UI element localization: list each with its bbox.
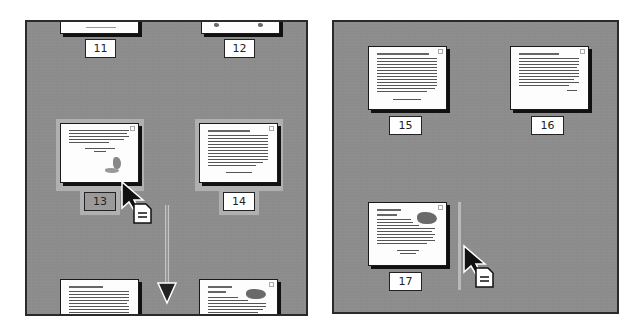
page-thumbnail-16[interactable] <box>510 46 589 110</box>
page-thumbnail-14[interactable] <box>199 123 278 183</box>
left-page-sorter-panel[interactable]: 11 12 13 14 <box>25 20 308 316</box>
page-number-15: 15 <box>389 116 422 135</box>
page-thumbnail-next-right[interactable] <box>199 279 278 316</box>
insertion-indicator-bar <box>458 202 461 290</box>
page-number-12: 12 <box>224 39 255 58</box>
page-thumbnail-15[interactable] <box>368 46 447 110</box>
page-thumbnail-11[interactable] <box>60 20 139 34</box>
arrow-down-icon <box>157 205 177 305</box>
drag-page-cursor-icon <box>120 180 160 225</box>
page-thumbnail-12[interactable] <box>201 20 280 34</box>
right-page-sorter-panel[interactable]: 15 16 17 <box>332 20 619 314</box>
page-number-17: 17 <box>389 272 422 291</box>
page-number-13: 13 <box>84 192 116 211</box>
page-number-14: 14 <box>223 192 255 211</box>
page-thumbnail-13[interactable] <box>60 123 139 183</box>
page-number-16: 16 <box>531 116 564 135</box>
page-thumbnail-17[interactable] <box>368 202 447 266</box>
drag-page-cursor-icon <box>462 244 502 289</box>
page-thumbnail-next-left[interactable] <box>60 279 139 316</box>
page-number-11: 11 <box>85 39 116 58</box>
